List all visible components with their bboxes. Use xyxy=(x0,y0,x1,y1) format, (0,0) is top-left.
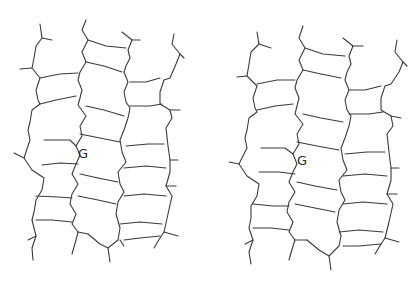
strand-2 xyxy=(70,20,88,254)
residue-label-g: G xyxy=(297,154,307,167)
strand-4 xyxy=(375,40,403,254)
stereo-left-panel: G xyxy=(0,0,209,281)
strand-1 xyxy=(239,32,259,264)
strand-1 xyxy=(24,24,44,260)
residue-label-g: G xyxy=(78,147,88,160)
strand-3 xyxy=(108,32,132,262)
beta-sheet-trace-left xyxy=(0,0,209,281)
beta-sheet-trace-right xyxy=(209,0,418,281)
strand-4 xyxy=(154,34,180,248)
stereo-right-panel: G xyxy=(209,0,418,281)
